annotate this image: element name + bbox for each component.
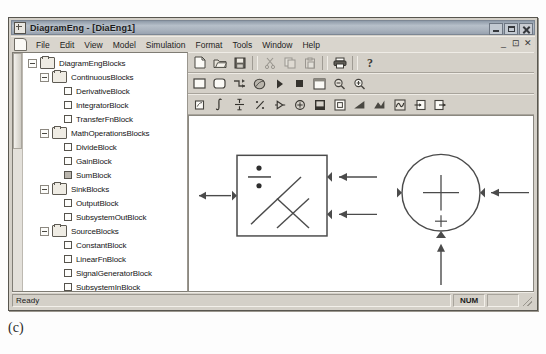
transfer-fn-block-button[interactable]: [230, 96, 249, 114]
print-button[interactable]: [330, 54, 349, 72]
status-pane-num-label: NUM: [460, 296, 478, 305]
tree-node-continuousblocks[interactable]: ContinuousBlocks: [25, 70, 187, 84]
integrator-block-button[interactable]: [210, 96, 229, 114]
subsystem-block-button[interactable]: [430, 96, 449, 114]
tree-expander-minus-icon[interactable]: [40, 129, 49, 138]
gain-block-button[interactable]: [270, 96, 289, 114]
tree-node-subsystemoutblock[interactable]: SubsystemOutBlock: [25, 210, 187, 224]
tree-node-label: SourceBlocks: [71, 227, 119, 236]
resize-grip[interactable]: [521, 295, 533, 307]
tree-node-transferfnblock[interactable]: TransferFnBlock: [25, 112, 187, 126]
linear-fn-block-button[interactable]: [370, 96, 389, 114]
diagram-canvas[interactable]: [188, 115, 534, 292]
tree-expander-minus-icon[interactable]: [40, 73, 49, 82]
menu-item-help[interactable]: Help: [297, 39, 324, 51]
tree-node-constantblock[interactable]: ConstantBlock: [25, 238, 187, 252]
tree-node-sinkblocks[interactable]: SinkBlocks: [25, 182, 187, 196]
sum-block-button[interactable]: [290, 96, 309, 114]
divide-block-button[interactable]: [250, 96, 269, 114]
tree-node-gainblock[interactable]: GainBlock: [25, 154, 187, 168]
maximize-button[interactable]: [504, 23, 518, 35]
subsystem-in-block-button[interactable]: [410, 96, 429, 114]
cut-button[interactable]: [260, 54, 279, 72]
svg-text:?: ?: [367, 56, 373, 69]
menu-item-simulation[interactable]: Simulation: [141, 39, 191, 51]
run-simulation-button[interactable]: [270, 75, 289, 93]
mdi-close-button[interactable]: ✕: [523, 38, 532, 48]
ellipse-button[interactable]: [250, 75, 269, 93]
menu-item-model[interactable]: Model: [108, 39, 141, 51]
client-area: DiagramEngBlocksContinuousBlocksDerivati…: [12, 52, 534, 292]
title-bar[interactable]: DiagramEng - [DiaEng1]: [11, 20, 535, 35]
divide-dot-top: [256, 166, 261, 171]
tree-node-derivativeblock[interactable]: DerivativeBlock: [25, 84, 187, 98]
connection-button[interactable]: [230, 75, 249, 93]
derivative-block-button[interactable]: [190, 96, 209, 114]
tree-node-sumblock[interactable]: SumBlock: [25, 168, 187, 182]
sum-block-input-port-bottom: [436, 231, 446, 238]
output-block-button[interactable]: [310, 96, 329, 114]
menu-item-file[interactable]: File: [31, 39, 55, 51]
minimize-button[interactable]: [489, 23, 503, 35]
tree-expander-minus-icon[interactable]: [40, 227, 49, 236]
tree-node-linearfnblock[interactable]: LinearFnBlock: [25, 252, 187, 266]
status-pane-extra: [487, 294, 519, 307]
model-toolbar: [188, 73, 534, 94]
tree-expander-minus-icon[interactable]: [28, 59, 37, 68]
menu-bar: File Edit View Model Simulation Format T…: [11, 36, 535, 52]
help-button[interactable]: ?: [360, 54, 379, 72]
menu-item-view[interactable]: View: [79, 39, 107, 51]
tree-node-label: IntegratorBlock: [76, 101, 128, 110]
zoom-out-button[interactable]: [330, 75, 349, 93]
connection-to-divide-input-2-arrowhead: [339, 210, 347, 218]
new-subsystem-button[interactable]: [210, 75, 229, 93]
subsystem-out-block-button[interactable]: [330, 96, 349, 114]
new-block-button[interactable]: [190, 75, 209, 93]
copy-button[interactable]: [280, 54, 299, 72]
toolbar-separator: [252, 56, 258, 70]
menu-item-edit[interactable]: Edit: [55, 39, 80, 51]
tree-node-sourceblocks[interactable]: SourceBlocks: [25, 224, 187, 238]
blocks-tree-panel: DiagramEngBlocksContinuousBlocksDerivati…: [12, 52, 188, 292]
tree-vertical-scrollbar[interactable]: [13, 53, 23, 291]
open-file-button[interactable]: [210, 54, 229, 72]
close-button[interactable]: [519, 23, 533, 35]
tree-spacer: [52, 115, 61, 124]
paste-button[interactable]: [300, 54, 319, 72]
tree-node-label: TransferFnBlock: [76, 115, 133, 124]
stop-simulation-button[interactable]: [290, 75, 309, 93]
tree-node-label: DivideBlock: [76, 143, 117, 152]
blocks-tree[interactable]: DiagramEngBlocksContinuousBlocksDerivati…: [23, 53, 187, 291]
tree-node-divideblock[interactable]: DivideBlock: [25, 140, 187, 154]
connection-sum-input-bottom-arrowhead: [437, 244, 445, 252]
tree-spacer: [52, 87, 61, 96]
menu-item-tools[interactable]: Tools: [227, 39, 257, 51]
menu-item-format[interactable]: Format: [190, 39, 227, 51]
tree-expander-minus-icon[interactable]: [40, 185, 49, 194]
tree-node-signalgeneratorblock[interactable]: SignalGeneratorBlock: [25, 266, 187, 280]
tree-node-subsysteminblock[interactable]: SubsystemInBlock: [25, 280, 187, 292]
signal-generator-block-button[interactable]: [390, 96, 409, 114]
menu-item-window[interactable]: Window: [257, 39, 297, 51]
folder-icon: [52, 225, 67, 237]
simulation-parameters-button[interactable]: [310, 75, 329, 93]
status-bar: Ready NUM: [12, 292, 534, 308]
tree-node-diagramengblocks[interactable]: DiagramEngBlocks: [25, 56, 187, 70]
document-icon: [14, 38, 27, 51]
tree-node-integratorblock[interactable]: IntegratorBlock: [25, 98, 187, 112]
tree-spacer: [52, 255, 61, 264]
figure-container: DiagramEng - [DiaEng1] File Edit View Mo…: [0, 0, 546, 354]
mdi-restore-button[interactable]: ⊡: [511, 38, 520, 48]
tree-spacer: [52, 283, 61, 292]
tree-spacer: [52, 199, 61, 208]
mdi-minimize-button[interactable]: _: [499, 38, 508, 48]
block-icon: [64, 269, 72, 277]
save-file-button[interactable]: [230, 54, 249, 72]
new-file-button[interactable]: [190, 54, 209, 72]
constant-block-button[interactable]: [350, 96, 369, 114]
zoom-in-button[interactable]: [350, 75, 369, 93]
scrollbar-thumb[interactable]: [13, 53, 22, 149]
tree-node-mathoperationsblocks[interactable]: MathOperationsBlocks: [25, 126, 187, 140]
toolbar-separator: [322, 56, 328, 70]
tree-node-outputblock[interactable]: OutputBlock: [25, 196, 187, 210]
